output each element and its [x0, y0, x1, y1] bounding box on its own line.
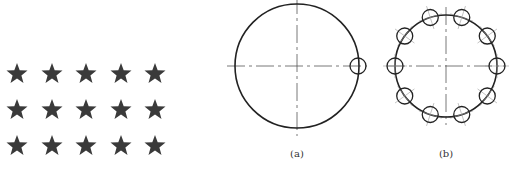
- star-icon: [145, 99, 166, 119]
- star-icon: [42, 99, 63, 119]
- star-icon: [145, 135, 166, 155]
- star-icon: [111, 135, 132, 155]
- star-icon: [111, 99, 132, 119]
- star-icon: [111, 63, 132, 83]
- star-icon: [76, 135, 97, 155]
- panel-a-diagram: [227, 0, 367, 136]
- figure-canvas: [0, 0, 515, 173]
- star-icon: [76, 63, 97, 83]
- star-icon: [7, 99, 28, 119]
- star-icon: [145, 63, 166, 83]
- panel-b-label: (b): [439, 148, 453, 159]
- panel-b-diagram: [383, 6, 509, 126]
- star-icon: [7, 135, 28, 155]
- star-icon: [76, 99, 97, 119]
- star-icon: [42, 135, 63, 155]
- star-grid: [7, 63, 166, 155]
- panel-a-label: (a): [290, 148, 304, 159]
- star-icon: [7, 63, 28, 83]
- star-icon: [42, 63, 63, 83]
